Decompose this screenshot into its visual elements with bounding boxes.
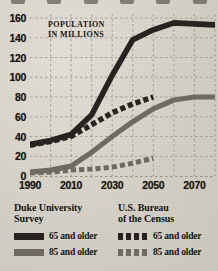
y-tick-160: 160 [0,12,26,24]
legend-label-duke-85: 85 and older [49,247,97,257]
legend-group-census-title: U.S. Bureau of the Census [118,202,218,224]
chart-legend: Duke University Survey 65 and older 85 a… [0,198,218,271]
y-tick-140: 140 [0,32,26,44]
chart-plot-area [0,0,218,196]
legend-swatch-census-85 [118,249,148,256]
legend-census-title-line1: U.S. Bureau [118,202,218,213]
legend-label-census-65: 65 and older [153,231,201,241]
legend-group-census: U.S. Bureau of the Census 65 and older 8… [118,202,218,260]
y-axis-note: POPULATION IN MILLIONS [48,20,105,40]
legend-label-census-85: 85 and older [153,247,201,257]
legend-duke-title-line1: Duke University [14,202,118,213]
x-tick-2010: 2010 [53,179,89,191]
x-tick-2030: 2030 [94,179,130,191]
y-axis-note-line2: IN MILLIONS [48,30,105,40]
legend-group-duke-title: Duke University Survey [14,202,118,224]
x-tick-2070: 2070 [176,179,212,191]
legend-swatch-census-65 [118,233,148,240]
y-axis-note-line1: POPULATION [48,20,105,30]
legend-item-duke-85: 85 and older [14,244,118,260]
legend-swatch-duke-65 [14,233,44,240]
y-tick-40: 40 [0,131,26,143]
legend-item-duke-65: 65 and older [14,228,118,244]
legend-group-duke: Duke University Survey 65 and older 85 a… [14,202,118,260]
legend-swatch-duke-85 [14,249,44,256]
y-tick-120: 120 [0,52,26,64]
legend-label-duke-65: 65 and older [49,231,97,241]
y-tick-100: 100 [0,71,26,83]
y-tick-20: 20 [0,150,26,162]
x-tick-2050: 2050 [135,179,171,191]
legend-duke-title-line2: Survey [14,213,118,224]
population-line-chart: POPULATION IN MILLIONS 02040608010012014… [0,0,218,196]
legend-item-census-85: 85 and older [118,244,218,260]
x-tick-1990: 1990 [12,179,48,191]
legend-item-census-65: 65 and older [118,228,218,244]
y-tick-80: 80 [0,91,26,103]
legend-census-title-line2: of the Census [118,213,218,224]
y-tick-60: 60 [0,111,26,123]
